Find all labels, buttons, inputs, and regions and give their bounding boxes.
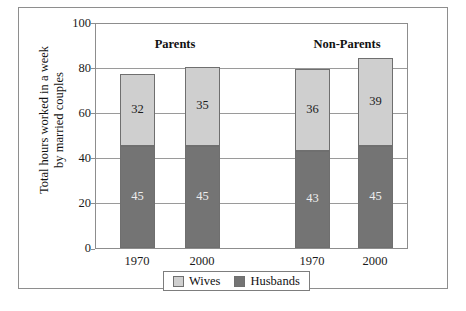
bar-value-husbands: 43 xyxy=(306,191,319,206)
bar-segment-wives[interactable]: 32 xyxy=(120,74,155,146)
y-tick-label-20: 20 xyxy=(57,197,91,210)
y-tick-label-40: 40 xyxy=(57,152,91,165)
chart-legend: Wives Husbands xyxy=(163,271,310,291)
bar-parents-2000[interactable]: 35 45 xyxy=(185,67,220,248)
bar-value-wives: 35 xyxy=(196,98,209,113)
y-tick-mark-0 xyxy=(91,249,95,250)
legend-swatch-wives-icon xyxy=(173,276,184,287)
y-tick-label-100: 100 xyxy=(57,17,91,30)
bar-segment-husbands[interactable]: 45 xyxy=(358,146,393,248)
bar-value-wives: 32 xyxy=(131,102,144,117)
bar-parents-1970[interactable]: 32 45 xyxy=(120,74,155,248)
bar-segment-husbands[interactable]: 43 xyxy=(295,151,330,248)
bar-nonparents-2000[interactable]: 39 45 xyxy=(358,58,393,248)
legend-label-husbands: Husbands xyxy=(250,274,299,289)
y-tick-label-80: 80 xyxy=(57,62,91,75)
x-tick-label-nonparents-2000: 2000 xyxy=(345,254,405,269)
bar-segment-wives[interactable]: 39 xyxy=(358,58,393,146)
y-axis-title-line1: Total hours worked in a week xyxy=(37,5,52,235)
bar-value-husbands: 45 xyxy=(196,189,209,204)
legend-swatch-husbands-icon xyxy=(234,276,245,287)
bar-value-husbands: 45 xyxy=(369,189,382,204)
x-tick-label-parents-2000: 2000 xyxy=(172,254,232,269)
bar-segment-wives[interactable]: 35 xyxy=(185,67,220,146)
legend-item-wives[interactable]: Wives xyxy=(173,274,220,289)
group-heading-non-parents: Non-Parents xyxy=(292,37,402,52)
y-tick-label-0: 0 xyxy=(57,242,91,255)
bar-segment-husbands[interactable]: 45 xyxy=(185,146,220,248)
legend-item-husbands[interactable]: Husbands xyxy=(234,274,299,289)
bar-segment-wives[interactable]: 36 xyxy=(295,69,330,151)
group-heading-parents: Parents xyxy=(135,37,215,52)
plot-area: 32 45 35 45 36 43 39 xyxy=(95,23,408,249)
legend-label-wives: Wives xyxy=(189,274,220,289)
stacked-bar-chart: Total hours worked in a week by married … xyxy=(0,0,466,311)
y-axis-tick-labels: 100 80 60 40 20 0 xyxy=(55,0,91,311)
bar-value-husbands: 45 xyxy=(131,189,144,204)
bar-segment-husbands[interactable]: 45 xyxy=(120,146,155,248)
x-tick-label-nonparents-1970: 1970 xyxy=(282,254,342,269)
bar-value-wives: 36 xyxy=(306,102,319,117)
bar-nonparents-1970[interactable]: 36 43 xyxy=(295,69,330,248)
bar-value-wives: 39 xyxy=(369,94,382,109)
y-tick-label-60: 60 xyxy=(57,107,91,120)
x-tick-label-parents-1970: 1970 xyxy=(107,254,167,269)
